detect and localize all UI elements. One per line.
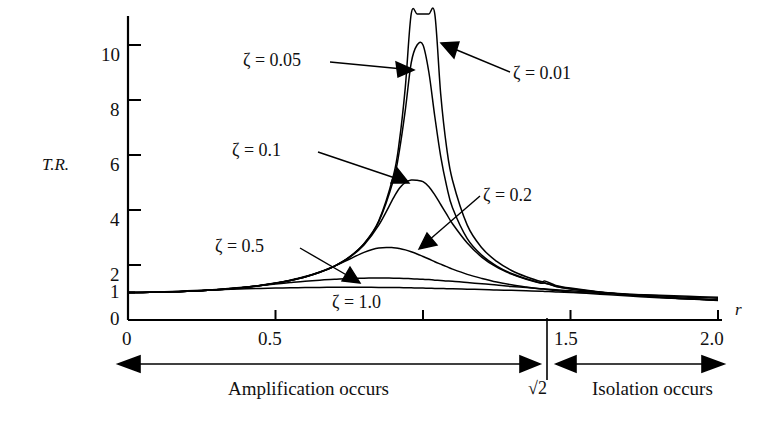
- curve-label-zeta-0-5: ζ = 0.5: [215, 236, 264, 257]
- curve-label-zeta-0-2: ζ = 0.2: [483, 185, 532, 206]
- y-tick-label-10: 10: [101, 44, 120, 66]
- leader-zeta-005: [330, 62, 414, 77]
- curve-label-zeta-0-01: ζ = 0.01: [513, 63, 571, 84]
- leader-zeta-02: [419, 196, 480, 249]
- leader-zeta-05: [300, 248, 360, 283]
- curve-zeta-0-05: [128, 42, 718, 300]
- curve-label-zeta-0-05: ζ = 0.05: [243, 50, 301, 71]
- sqrt2-label: √2: [528, 378, 547, 399]
- y-tick-label-6: 6: [110, 154, 120, 176]
- x-tick-label-15: 1.5: [554, 328, 578, 350]
- annotation-leaders: [300, 42, 510, 283]
- x-tick-label-0: 0: [122, 328, 132, 350]
- y-axis-label: T.R.: [42, 155, 69, 175]
- figure-root: 10 8 6 4 2 1 0 T.R. 0 0.5 1.0 1.5 2.0 r …: [0, 0, 777, 428]
- curve-label-zeta-1-0: ζ = 1.0: [332, 292, 381, 313]
- y-tick-label-4: 4: [110, 209, 120, 231]
- x-axis-label: r: [735, 300, 742, 320]
- x-tick-label-20: 2.0: [700, 328, 724, 350]
- x-tick-label-05: 0.5: [258, 328, 282, 350]
- y-tick-label-0: 0: [110, 308, 120, 330]
- curve-label-zeta-0-1: ζ = 0.1: [232, 140, 281, 161]
- region-indicator-bar: [118, 318, 724, 380]
- leader-zeta-001: [441, 42, 510, 72]
- isolation-region-label: Isolation occurs: [592, 378, 713, 400]
- y-tick-label-1: 1: [110, 281, 120, 303]
- y-axis-ticks: [128, 45, 141, 320]
- axes: [128, 16, 722, 320]
- amplification-region-label: Amplification occurs: [228, 378, 389, 400]
- y-tick-label-8: 8: [110, 99, 120, 121]
